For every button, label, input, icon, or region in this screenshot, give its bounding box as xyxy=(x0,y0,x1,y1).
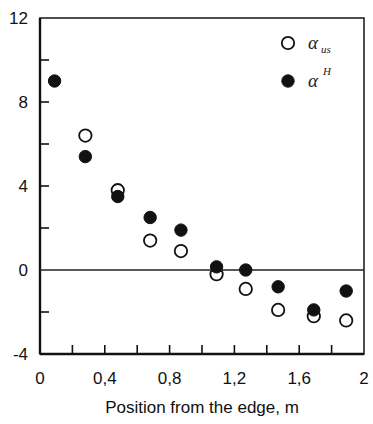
legend-label: αus xyxy=(308,32,331,55)
x-tick-label: 2 xyxy=(359,369,368,388)
x-tick-label: 0,4 xyxy=(93,369,117,388)
legend-filled-marker xyxy=(282,75,294,87)
open-point xyxy=(240,283,252,295)
x-axis: 00,40,81,21,62 xyxy=(35,345,368,388)
legend-open-marker xyxy=(282,37,294,49)
x-tick-label: 0 xyxy=(35,369,44,388)
y-tick-label: 0 xyxy=(19,261,28,280)
x-tick-label: 1,2 xyxy=(223,369,247,388)
filled-point xyxy=(272,281,284,293)
y-tick-label: -4 xyxy=(13,345,28,364)
filled-point xyxy=(340,285,352,297)
filled-point xyxy=(308,304,320,316)
y-axis: -404812 xyxy=(9,9,49,364)
x-tick-label: 0,8 xyxy=(158,369,182,388)
y-tick-label: 12 xyxy=(9,9,28,28)
open-point xyxy=(175,245,187,257)
y-tick-label: 8 xyxy=(19,93,28,112)
filled-point xyxy=(79,150,91,162)
scatter-chart: 00,40,81,21,62 -404812 αusαH Position fr… xyxy=(0,0,373,424)
filled-point xyxy=(112,190,124,202)
x-tick-label: 1,6 xyxy=(287,369,311,388)
filled-point xyxy=(48,75,60,87)
open-point xyxy=(340,314,352,326)
open-point xyxy=(272,304,284,316)
legend: αusαH xyxy=(282,32,332,91)
filled-point xyxy=(210,261,222,273)
y-tick-label: 4 xyxy=(19,177,28,196)
open-point xyxy=(144,234,156,246)
legend-label: αH xyxy=(308,65,332,91)
data-points xyxy=(48,75,352,327)
filled-point xyxy=(175,224,187,236)
x-axis-title: Position from the edge, m xyxy=(105,398,299,417)
filled-point xyxy=(240,264,252,276)
open-point xyxy=(79,129,91,141)
filled-point xyxy=(144,211,156,223)
